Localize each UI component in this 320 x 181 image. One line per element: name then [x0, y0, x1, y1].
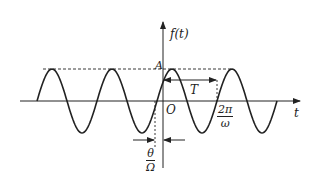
- amplitude-label: A: [155, 60, 163, 71]
- y-axis-label: f(t): [170, 28, 189, 40]
- phase-shift-fraction: θ Ω: [146, 148, 155, 173]
- sine-wave-diagram: f(t) t O A T 2π ω θ Ω: [0, 0, 320, 181]
- diagram-canvas: [0, 0, 320, 181]
- period-label: T: [190, 84, 198, 96]
- origin-label: O: [166, 104, 176, 116]
- phase-denominator: Ω: [146, 161, 155, 173]
- x-axis-label: t: [294, 107, 299, 119]
- period-denominator: ω: [217, 117, 233, 129]
- period-value-fraction: 2π ω: [217, 104, 233, 129]
- phase-numerator: θ: [146, 148, 155, 161]
- period-numerator: 2π: [217, 104, 233, 117]
